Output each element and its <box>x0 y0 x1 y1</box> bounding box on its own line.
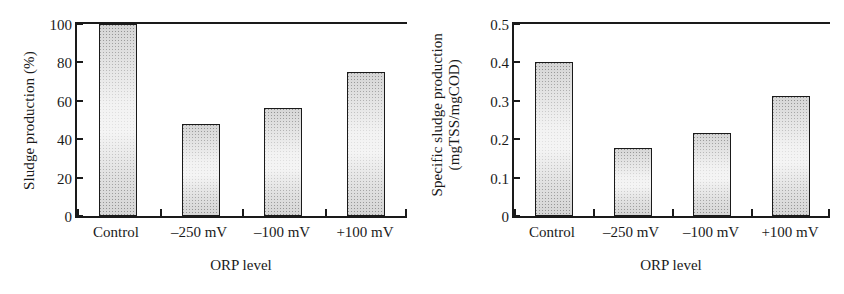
x-axis-title-left: ORP level <box>210 257 272 274</box>
x-axis-tick-right <box>828 209 830 216</box>
y-axis-tick-label-right: 0.3 <box>490 93 509 110</box>
y-axis-title-left: Sludge production (%) <box>21 26 38 216</box>
y-axis-tick-right: 0.4 <box>514 61 520 63</box>
y-axis-tick-label-left: 60 <box>57 93 72 110</box>
x-category-label-control-right: Control <box>529 224 575 241</box>
x-axis-tick-left <box>77 209 79 216</box>
x-category-label-minus100-left: –100 mV <box>254 224 310 241</box>
chart-panel-sludge-production: Sludge production (%) 020406080100 Contr… <box>0 0 422 294</box>
bar-right-2 <box>693 133 731 216</box>
x-category-label-minus100-right: –100 mV <box>683 224 739 241</box>
x-axis-title-right: ORP level <box>640 257 702 274</box>
y-axis-tick-left: 100 <box>77 23 83 25</box>
x-category-label-plus100-left: +100 mV <box>336 224 393 241</box>
x-axis-tick-right <box>751 209 753 216</box>
x-category-label-minus250-right: –250 mV <box>603 224 659 241</box>
y-axis-title-right: Specific sludge production(mgTSS/mgCOD) <box>429 17 463 213</box>
x-category-label-minus250-left: –250 mV <box>171 224 227 241</box>
y-axis-tick-label-left: 40 <box>57 132 72 149</box>
x-axis-tick-right <box>672 209 674 216</box>
y-axis-tick-right: 0.5 <box>514 23 520 25</box>
y-axis-tick-label-left: 20 <box>57 170 72 187</box>
figure-panels-row: Sludge production (%) 020406080100 Contr… <box>0 0 844 294</box>
y-axis-tick-left: 20 <box>77 177 83 179</box>
y-axis-tick-label-right: 0.4 <box>490 55 509 72</box>
x-axis-tick-left <box>160 209 162 216</box>
x-axis-tick-left <box>242 209 244 216</box>
y-axis-tick-label-right: 0.5 <box>490 17 509 34</box>
x-axis-tick-right <box>593 209 595 216</box>
y-axis-tick-right: 0.3 <box>514 100 520 102</box>
y-axis-tick-label-left: 80 <box>57 55 72 72</box>
y-axis-tick-left: 40 <box>77 138 83 140</box>
cut-off-caption-sliver <box>14 289 484 294</box>
y-axis-tick-label-right: 0.1 <box>490 170 509 187</box>
y-axis-tick-label-left: 0 <box>65 209 73 226</box>
x-category-label-plus100-right: +100 mV <box>761 224 818 241</box>
y-axis-title-right-line2: (mgTSS/mgCOD) <box>446 59 462 170</box>
x-axis-tick-left <box>405 209 407 216</box>
y-axis-tick-label-right: 0 <box>502 209 510 226</box>
y-axis-title-right-line1: Specific sludge production <box>429 33 445 196</box>
plot-area-left: 020406080100 <box>75 22 407 218</box>
bar-left-1 <box>182 124 220 216</box>
plot-area-right: 00.10.20.30.40.5 <box>512 22 830 218</box>
bar-left-2 <box>264 108 302 216</box>
bar-right-3 <box>772 96 810 216</box>
bar-right-1 <box>614 148 652 216</box>
y-axis-tick-left: 80 <box>77 61 83 63</box>
x-category-label-control-left: Control <box>93 224 139 241</box>
y-axis-tick-label-left: 100 <box>50 17 73 34</box>
x-axis-tick-left <box>325 209 327 216</box>
y-axis-tick-right: 0.2 <box>514 138 520 140</box>
y-axis-tick-right: 0.1 <box>514 177 520 179</box>
x-axis-tick-right <box>514 209 516 216</box>
y-axis-tick-left: 60 <box>77 100 83 102</box>
y-axis-tick-label-right: 0.2 <box>490 132 509 149</box>
bar-right-0 <box>535 62 573 216</box>
bar-left-3 <box>347 72 385 216</box>
bar-left-0 <box>99 24 137 216</box>
chart-panel-specific-sludge-production: Specific sludge production(mgTSS/mgCOD) … <box>422 0 844 294</box>
